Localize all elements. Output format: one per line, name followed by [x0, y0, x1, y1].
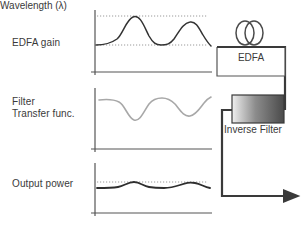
device-inverse-filter[interactable] [232, 95, 284, 123]
device-label-inverse-filter: Inverse Filter [213, 124, 293, 135]
panel-label-edfa-gain: EDFA gain [12, 37, 60, 49]
figure-canvas: EDFA gain Filter Transfer func. Output p… [0, 0, 304, 247]
output-curve [97, 182, 210, 188]
panel-filter-transfer [91, 88, 212, 152]
fiber-coil-icon [236, 21, 263, 45]
device-label-edfa: EDFA [225, 52, 277, 63]
filter-curve [99, 97, 211, 120]
gain-curve [96, 17, 211, 46]
device-edfa[interactable] [217, 21, 285, 76]
panel-label-filter-transfer: Filter Transfer func. [12, 96, 75, 120]
panel-edfa-gain [91, 10, 212, 75]
panel-label-output-power: Output power [12, 178, 73, 190]
inverse-filter-box [232, 95, 284, 123]
panel-output-power [91, 163, 212, 216]
